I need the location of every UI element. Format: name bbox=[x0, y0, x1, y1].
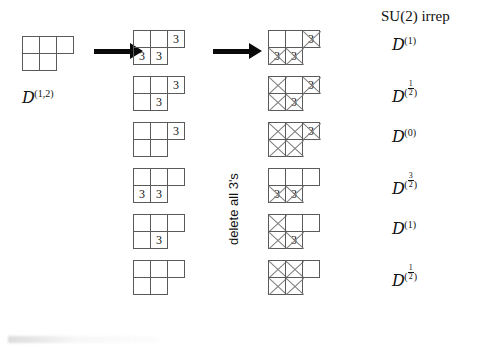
row-1-filled-cell-value: 3 bbox=[134, 48, 150, 64]
row-4-irrep-symbol: D bbox=[392, 179, 404, 198]
row-3-filled-tableau: 3 bbox=[133, 122, 185, 157]
row-3-reduced-row bbox=[268, 139, 320, 157]
row-1-reduced-cell-value: 3 bbox=[303, 31, 319, 47]
row-6-reduced-cell bbox=[285, 260, 303, 278]
row-5-filled-cell bbox=[150, 214, 168, 232]
row-1-filled-row: 33 bbox=[133, 47, 185, 65]
row-5-reduced-cell bbox=[268, 231, 286, 249]
row-5-filled-cell bbox=[167, 214, 185, 232]
row-5-filled-cell bbox=[133, 231, 151, 249]
row-2-filled-cell: 3 bbox=[150, 93, 168, 111]
row-1-filled-cell-value: 3 bbox=[151, 48, 167, 64]
row-2-filled-row: 3 bbox=[133, 76, 185, 94]
row-6-reduced-tableau bbox=[268, 260, 320, 295]
row-6-irrep-symbol: D bbox=[392, 271, 404, 290]
row-5-reduced-cell bbox=[285, 214, 303, 232]
row-5-irrep-superscript: (1) bbox=[404, 219, 416, 230]
row-4-filled-cell bbox=[133, 168, 151, 186]
row-1-filled-cell: 3 bbox=[150, 47, 168, 65]
row-2-reduced-tableau: 33 bbox=[268, 76, 320, 111]
row-6-irrep-label: D(12) bbox=[392, 265, 417, 290]
row-2-filled-cell-value: 3 bbox=[151, 94, 167, 110]
row-6-reduced-row bbox=[268, 260, 320, 278]
row-4-reduced-tableau: 33 bbox=[268, 168, 320, 203]
row-4-reduced-row bbox=[268, 168, 320, 186]
row-2-filled-cell bbox=[133, 93, 151, 111]
row-6-filled-cell bbox=[167, 260, 185, 278]
row-4-filled-cell: 3 bbox=[150, 185, 168, 203]
row-5-filled-row bbox=[133, 214, 185, 232]
row-2-filled-cell: 3 bbox=[167, 76, 185, 94]
row-3-filled-cell: 3 bbox=[167, 122, 185, 140]
row-2-reduced-cell bbox=[268, 93, 286, 111]
row-3-irrep-superscript: (0) bbox=[404, 127, 416, 138]
header-su2-irrep-label: SU(2) irrep bbox=[381, 8, 450, 25]
caption-smudge bbox=[8, 336, 158, 343]
row-2-irrep-fraction: 12 bbox=[408, 80, 414, 97]
row-6-reduced-cell bbox=[285, 277, 303, 295]
row-1-reduced-row: 33 bbox=[268, 47, 320, 65]
source-tableau-row bbox=[22, 53, 74, 71]
row-5-reduced-cell bbox=[302, 214, 320, 232]
row-1-irrep-symbol: D bbox=[392, 35, 404, 54]
source-tableau bbox=[22, 36, 74, 71]
row-2-reduced-cell-value: 3 bbox=[286, 94, 302, 110]
source-tableau-row bbox=[22, 36, 74, 54]
row-5-filled-cell-value: 3 bbox=[151, 232, 167, 248]
source-tableau-cell bbox=[56, 36, 74, 54]
row-6-reduced-cell bbox=[302, 260, 320, 278]
row-4-filled-cell bbox=[167, 168, 185, 186]
row-2-filled-tableau: 33 bbox=[133, 76, 185, 111]
row-4-irrep-fraction: 32 bbox=[408, 172, 414, 189]
source-tableau-cell bbox=[39, 53, 57, 71]
row-5-reduced-tableau: 3 bbox=[268, 214, 320, 249]
row-1-filled-cell bbox=[150, 30, 168, 48]
row-1-reduced-cell: 3 bbox=[302, 30, 320, 48]
row-3-irrep-label: D(0) bbox=[392, 127, 416, 146]
row-3-reduced-tableau: 3 bbox=[268, 122, 320, 157]
row-1-filled-tableau: 333 bbox=[133, 30, 185, 65]
row-3-filled-cell bbox=[133, 122, 151, 140]
row-4-reduced-cell bbox=[302, 168, 320, 186]
row-2-reduced-cell bbox=[285, 76, 303, 94]
row-3-reduced-cell bbox=[268, 139, 286, 157]
row-3-filled-row: 3 bbox=[133, 122, 185, 140]
source-tableau-cell bbox=[39, 36, 57, 54]
figure-canvas: SU(2) irrep delete all 3's D(1,2) 333333… bbox=[0, 0, 478, 350]
row-5-reduced-cell: 3 bbox=[285, 231, 303, 249]
delete-all-threes-label: delete all 3's bbox=[226, 173, 241, 245]
row-1-filled-cell: 3 bbox=[167, 30, 185, 48]
row-6-filled-row bbox=[133, 277, 185, 295]
row-3-reduced-cell: 3 bbox=[302, 122, 320, 140]
row-6-reduced-row bbox=[268, 277, 320, 295]
row-3-filled-cell-value: 3 bbox=[168, 123, 184, 139]
source-irrep-superscript: (1,2) bbox=[34, 88, 53, 99]
row-1-filled-cell: 3 bbox=[133, 47, 151, 65]
row-5-reduced-row: 3 bbox=[268, 231, 320, 249]
row-4-reduced-cell bbox=[285, 168, 303, 186]
row-4-filled-row: 33 bbox=[133, 185, 185, 203]
row-6-filled-row bbox=[133, 260, 185, 278]
row-1-reduced-tableau: 333 bbox=[268, 30, 320, 65]
row-4-filled-cell-value: 3 bbox=[151, 186, 167, 202]
row-1-reduced-row: 3 bbox=[268, 30, 320, 48]
row-5-filled-cell: 3 bbox=[150, 231, 168, 249]
row-6-reduced-cell bbox=[268, 260, 286, 278]
row-3-irrep-symbol: D bbox=[392, 127, 404, 146]
row-2-irrep-paren-close: ) bbox=[414, 87, 417, 98]
row-6-irrep-paren-close: ) bbox=[414, 271, 417, 282]
row-1-reduced-cell: 3 bbox=[285, 47, 303, 65]
row-1-filled-cell-value: 3 bbox=[168, 31, 184, 47]
row-6-filled-cell bbox=[133, 277, 151, 295]
row-1-reduced-cell-value: 3 bbox=[286, 48, 302, 64]
row-3-reduced-cell bbox=[285, 122, 303, 140]
row-1-reduced-cell bbox=[285, 30, 303, 48]
row-3-filled-row bbox=[133, 139, 185, 157]
row-4-filled-row bbox=[133, 168, 185, 186]
row-3-reduced-cell-value: 3 bbox=[303, 123, 319, 139]
row-2-reduced-row: 3 bbox=[268, 76, 320, 94]
row-4-irrep-paren-close: ) bbox=[414, 179, 417, 190]
arrow-2-icon bbox=[213, 46, 264, 56]
row-5-reduced-cell bbox=[268, 214, 286, 232]
row-4-filled-tableau: 33 bbox=[133, 168, 185, 203]
